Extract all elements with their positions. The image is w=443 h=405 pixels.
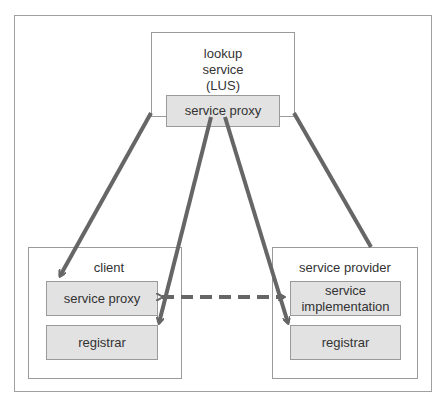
connector-lines (0, 0, 443, 405)
provider-to-lus-line (294, 113, 371, 247)
lus-to-client-arrow (60, 113, 151, 276)
lus-to-client-registrar-arrow (159, 117, 211, 323)
lus-to-provider-registrar-arrow (225, 117, 288, 323)
